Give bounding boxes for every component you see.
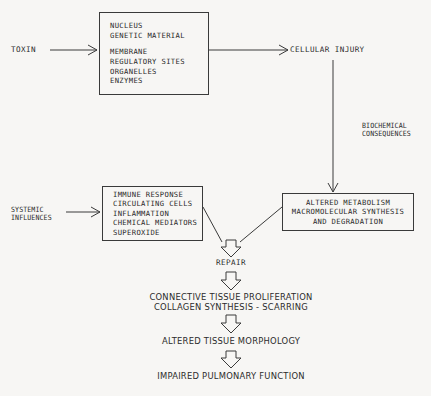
connective-tissue-to-morphology-hollow-arrow [221, 315, 241, 333]
box-line: ALTERED METABOLISM [283, 198, 413, 208]
box-line: IMMUNE RESPONSE [103, 190, 202, 200]
cellular-injury-to-metabolism-arrow [328, 60, 338, 192]
systemic-influences-label-line2: INFLUENCES [11, 214, 52, 223]
cellular-targets-box: NUCLEUS GENETIC MATERIAL MEMBRANE REGULA… [99, 12, 209, 95]
box-line: MEMBRANE [100, 47, 208, 57]
box-line: NUCLEUS [100, 21, 208, 31]
altered-metabolism-box: ALTERED METABOLISM MACROMOLECULAR SYNTHE… [282, 193, 414, 231]
collagen-synthesis-scarring-node: COLLAGEN SYNTHESIS - SCARRING [154, 303, 308, 313]
box-line: SUPEROXIDE [103, 228, 202, 238]
box-line: ORGANELLES [100, 67, 208, 77]
cellular-injury-node: CELLULAR INJURY [290, 45, 365, 55]
box-line: CIRCULATING CELLS [103, 199, 202, 209]
box-line: MACROMOLECULAR SYNTHESIS [283, 207, 413, 217]
box-line-spacer [100, 40, 208, 47]
repair-to-connective-tissue-hollow-arrow [221, 272, 241, 290]
morphology-to-pulmonary-hollow-arrow [221, 351, 241, 368]
biochemical-consequences-label-line2: CONSEQUENCES [362, 130, 411, 139]
toxin-label: TOXIN [11, 45, 36, 55]
box-line: GENETIC MATERIAL [100, 31, 208, 41]
box-line: ENZYMES [100, 76, 208, 86]
altered-tissue-morphology-node: ALTERED TISSUE MORPHOLOGY [162, 337, 300, 347]
cell-targets-to-cellular-injury-arrow [209, 45, 288, 55]
box-line: CHEMICAL MEDIATORS [103, 218, 202, 228]
flowchart-diagram: TOXIN SYSTEMIC INFLUENCES NUCLEUS GENETI… [0, 0, 431, 396]
impaired-pulmonary-function-node: IMPAIRED PULMONARY FUNCTION [157, 372, 305, 382]
box-line: AND DEGRADATION [283, 217, 413, 227]
toxin-to-cell-targets-arrow [50, 45, 97, 55]
metabolism-to-repair-merge [240, 207, 282, 242]
immune-response-box: IMMUNE RESPONSE CIRCULATING CELLS INFLAM… [102, 186, 203, 241]
immune-to-repair-merge [203, 207, 222, 242]
box-line: REGULATORY SITES [100, 57, 208, 67]
repair-node: REPAIR [216, 258, 246, 268]
merge-to-repair-hollow-arrow [221, 240, 241, 257]
box-line: INFLAMMATION [103, 209, 202, 219]
systemic-influences-to-immune-arrow [66, 207, 100, 217]
